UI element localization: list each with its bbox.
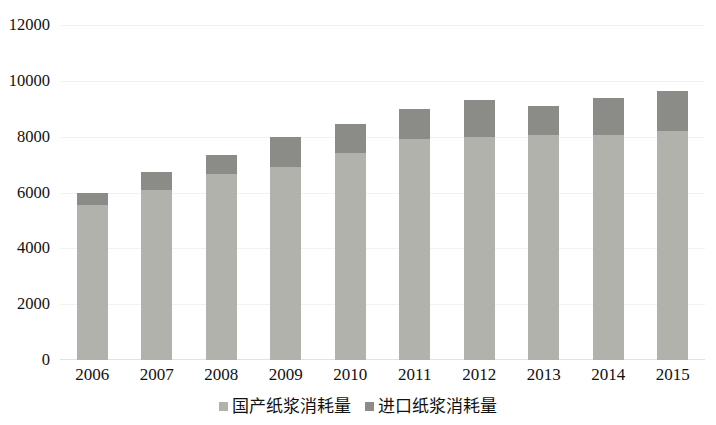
bar-group[interactable] (657, 91, 688, 360)
bar-segment-domestic[interactable] (335, 153, 366, 360)
bar-segment-import[interactable] (399, 109, 430, 140)
bar-segment-import[interactable] (77, 193, 108, 206)
bar-segment-import[interactable] (657, 91, 688, 131)
bar-series-container (60, 25, 705, 360)
bar-segment-domestic[interactable] (528, 135, 559, 360)
bar-segment-domestic[interactable] (77, 205, 108, 360)
bar-group[interactable] (528, 106, 559, 360)
legend-label: 国产纸浆消耗量 (232, 398, 351, 415)
y-axis-tick-label: 6000 (17, 184, 50, 201)
bar-group[interactable] (464, 100, 495, 360)
y-axis-tick-label: 8000 (17, 128, 50, 145)
bar-segment-domestic[interactable] (593, 135, 624, 360)
bar-group[interactable] (399, 109, 430, 360)
x-axis-tick-label: 2012 (462, 366, 496, 385)
y-axis-tick-label: 4000 (17, 240, 50, 257)
x-axis-tick-label: 2014 (591, 366, 625, 385)
bar-group[interactable] (141, 172, 172, 360)
legend-swatch-icon (365, 402, 374, 411)
x-axis-tick-label: 2009 (269, 366, 303, 385)
y-axis: 020004000600080001000012000 (0, 0, 56, 425)
stacked-bar-chart: 020004000600080001000012000 200620072008… (0, 0, 716, 425)
y-axis-tick-label: 0 (42, 352, 50, 369)
bar-group[interactable] (593, 98, 624, 360)
bar-segment-domestic[interactable] (206, 174, 237, 360)
bar-segment-import[interactable] (141, 172, 172, 190)
bar-segment-domestic[interactable] (270, 167, 301, 360)
bar-segment-domestic[interactable] (657, 131, 688, 360)
x-axis-tick-label: 2008 (204, 366, 238, 385)
x-axis-tick-label: 2010 (333, 366, 367, 385)
y-axis-tick-label: 10000 (9, 73, 50, 90)
bar-group[interactable] (335, 124, 366, 360)
y-axis-tick-label: 2000 (17, 296, 50, 313)
legend-label: 进口纸浆消耗量 (378, 398, 497, 415)
bar-segment-domestic[interactable] (464, 137, 495, 360)
bar-segment-import[interactable] (593, 98, 624, 136)
y-axis-tick-label: 12000 (9, 17, 50, 34)
x-axis-tick-label: 2015 (656, 366, 690, 385)
plot-area (60, 25, 705, 360)
bar-group[interactable] (77, 193, 108, 361)
bar-segment-import[interactable] (206, 155, 237, 175)
x-axis-tick-label: 2007 (140, 366, 174, 385)
x-axis-tick-label: 2006 (75, 366, 109, 385)
x-axis-categories: 2006200720082009201020112012201320142015 (60, 366, 705, 392)
bar-group[interactable] (270, 137, 301, 360)
bar-segment-domestic[interactable] (399, 139, 430, 360)
bar-segment-import[interactable] (464, 100, 495, 136)
bar-segment-domestic[interactable] (141, 190, 172, 360)
legend-item-domestic[interactable]: 国产纸浆消耗量 (219, 398, 351, 415)
bar-segment-import[interactable] (335, 124, 366, 153)
x-axis-tick-label: 2013 (527, 366, 561, 385)
x-axis-tick-label: 2011 (398, 366, 431, 385)
chart-legend: 国产纸浆消耗量进口纸浆消耗量 (0, 398, 716, 415)
legend-swatch-icon (219, 402, 228, 411)
bar-segment-import[interactable] (270, 137, 301, 168)
bar-segment-import[interactable] (528, 106, 559, 135)
legend-item-import[interactable]: 进口纸浆消耗量 (365, 398, 497, 415)
bar-group[interactable] (206, 155, 237, 360)
